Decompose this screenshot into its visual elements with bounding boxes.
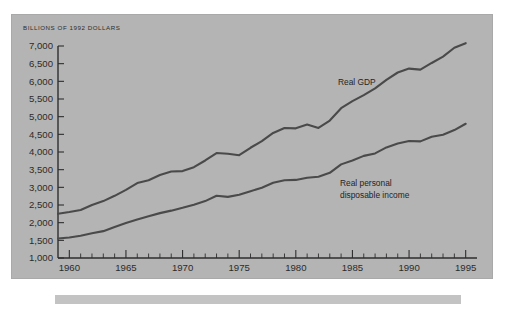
y-tick-label: 2,000 xyxy=(29,217,53,228)
y-tick-label: 4,000 xyxy=(29,146,53,157)
y-tick-label: 1,500 xyxy=(29,235,53,246)
series-annotations: Real GDP Real personal disposable income xyxy=(338,77,410,200)
x-tick-label: 1975 xyxy=(229,262,250,273)
y-tick-label: 7,000 xyxy=(29,40,53,51)
figure-container: 7,0006,5006,0005,5005,0004,5004,0003,500… xyxy=(0,0,516,309)
x-tick-label: 1965 xyxy=(115,262,136,273)
y-tick-label: 6,000 xyxy=(29,76,53,87)
x-tick-label: 1990 xyxy=(398,262,419,273)
footer-bar xyxy=(55,295,461,304)
series-lines xyxy=(58,43,466,238)
x-tick-label: 1985 xyxy=(342,262,363,273)
x-tick-label: 1995 xyxy=(455,262,476,273)
label-real-personal-disposable-income-line1: Real personal xyxy=(340,178,392,188)
y-tick-labels: 7,0006,5006,0005,5005,0004,5004,0003,500… xyxy=(29,40,53,263)
y-tick-label: 5,000 xyxy=(29,111,53,122)
x-axis-group: 19601965197019751980198519901995 xyxy=(58,250,477,273)
y-tick-label: 4,500 xyxy=(29,129,53,140)
y-tick-label: 2,500 xyxy=(29,199,53,210)
label-real-personal-disposable-income-line2: disposable income xyxy=(340,190,410,200)
y-tick-label: 3,000 xyxy=(29,182,53,193)
y-tick-label: 1,000 xyxy=(29,252,53,263)
y-tick-marks xyxy=(58,46,64,258)
x-tick-label: 1980 xyxy=(285,262,306,273)
y-tick-label: 6,500 xyxy=(29,58,53,69)
chart-title: BILLIONS OF 1992 DOLLARS xyxy=(23,24,120,31)
y-axis-group: 7,0006,5006,0005,5005,0004,5004,0003,500… xyxy=(29,40,64,263)
y-tick-label: 5,500 xyxy=(29,93,53,104)
x-tick-label: 1960 xyxy=(59,262,80,273)
x-tick-labels: 19601965197019751980198519901995 xyxy=(59,262,477,273)
chart-plot: 7,0006,5006,0005,5005,0004,5004,0003,500… xyxy=(11,14,493,279)
x-tick-marks xyxy=(69,250,465,258)
chart-panel: 7,0006,5006,0005,5005,0004,5004,0003,500… xyxy=(11,14,493,279)
x-tick-label: 1970 xyxy=(172,262,193,273)
y-tick-label: 3,500 xyxy=(29,164,53,175)
label-real-gdp: Real GDP xyxy=(338,77,376,87)
